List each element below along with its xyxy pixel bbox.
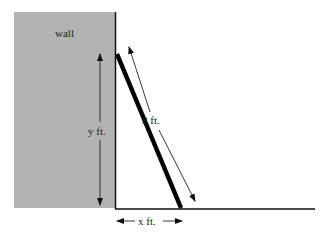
height-label: y ft. bbox=[87, 126, 107, 137]
ladder-length-arrow-upper bbox=[129, 47, 150, 112]
ladder-diagram bbox=[0, 0, 326, 240]
base-distance-label: x ft. bbox=[138, 216, 156, 227]
wall-label: wall bbox=[55, 28, 74, 39]
ladder-length-label: 8 ft. bbox=[142, 115, 160, 126]
ladder bbox=[117, 54, 181, 208]
